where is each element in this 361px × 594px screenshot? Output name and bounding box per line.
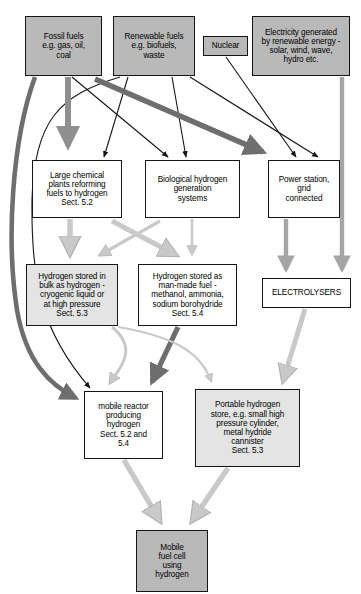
node-power-station-label: Power station, grid connected (279, 175, 329, 203)
edge-large-chemical-to-stored-manmade (112, 221, 176, 255)
node-hydrogen-stored-bulk[interactable]: Hydrogen stored in bulk as hydrogen - cr… (26, 264, 118, 326)
node-biological-hydrogen[interactable]: Biological hydrogen generation systems (145, 160, 240, 218)
node-large-chemical-plants-label: Large chemical plants reforming fuels to… (46, 171, 107, 208)
node-hydrogen-stored-manmade[interactable]: Hydrogen stored as man-made fuel - metha… (138, 264, 237, 326)
diagram-page: Fossil fuels e.g. gas, oil, coal Renewab… (0, 0, 361, 594)
node-biological-hydrogen-label: Biological hydrogen generation systems (158, 175, 228, 203)
edge-renewable-to-mobile-reactor (32, 77, 120, 388)
node-fossil-fuels[interactable]: Fossil fuels e.g. gas, oil, coal (25, 16, 102, 76)
node-electricity-renewable-label: Electricity generated by renewable energ… (262, 28, 341, 65)
node-power-station[interactable]: Power station, grid connected (268, 160, 340, 218)
edge-stored-bulk-to-mobile-reactor (110, 327, 126, 383)
edge-electrolysers-to-portable-store (283, 309, 305, 381)
node-renewable-fuels-label: Renewable fuels e.g. biofuels, waste (124, 32, 183, 60)
node-mobile-fuel-cell[interactable]: Mobile fuel cell using hydrogen (136, 530, 208, 592)
edge-mobile-reactor-to-fuel-cell (124, 460, 160, 521)
node-hydrogen-stored-manmade-label: Hydrogen stored as man-made fuel - metha… (151, 272, 223, 318)
node-nuclear-label: Nuclear (212, 41, 240, 50)
node-electrolysers[interactable]: ELECTROLYSERS (262, 278, 351, 308)
edge-fossil-to-power-station (95, 79, 263, 152)
node-portable-hydrogen-store[interactable]: Portable hydrogen store, e.g. small high… (195, 389, 300, 467)
node-renewable-fuels[interactable]: Renewable fuels e.g. biofuels, waste (113, 16, 195, 76)
edge-renewable-to-power-station (190, 77, 318, 157)
node-hydrogen-stored-bulk-label: Hydrogen stored in bulk as hydrogen - cr… (38, 272, 105, 318)
node-mobile-reactor-label: mobile reactor producing hydrogen Sect. … (98, 402, 148, 448)
node-mobile-reactor[interactable]: mobile reactor producing hydrogen Sect. … (84, 391, 163, 459)
node-large-chemical-plants[interactable]: Large chemical plants reforming fuels to… (32, 160, 122, 218)
node-electricity-renewable[interactable]: Electricity generated by renewable energ… (252, 16, 350, 76)
edge-biological-to-stored-bulk (100, 221, 160, 255)
node-electrolysers-label: ELECTROLYSERS (272, 288, 341, 297)
node-nuclear[interactable]: Nuclear (203, 36, 248, 56)
node-fossil-fuels-label: Fossil fuels e.g. gas, oil, coal (42, 32, 85, 60)
node-mobile-fuel-cell-label: Mobile fuel cell using hydrogen (155, 543, 188, 580)
node-portable-hydrogen-store-label: Portable hydrogen store, e.g. small high… (211, 400, 284, 455)
edge-portable-store-to-fuel-cell (192, 468, 228, 521)
